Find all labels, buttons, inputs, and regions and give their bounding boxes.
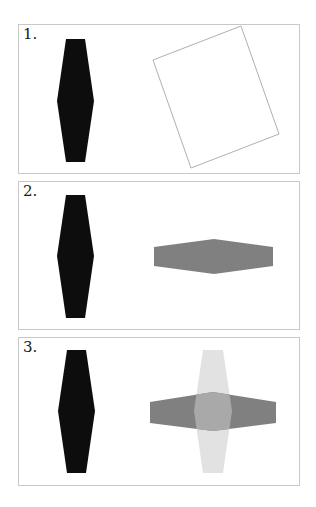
black-hexagon-2 <box>57 195 94 318</box>
rotated-square-outline <box>153 26 279 168</box>
gray-horizontal-hexagon <box>154 239 273 274</box>
black-hexagon-1 <box>57 39 94 162</box>
black-hexagon-3 <box>58 350 95 473</box>
diagram-canvas <box>0 0 316 507</box>
